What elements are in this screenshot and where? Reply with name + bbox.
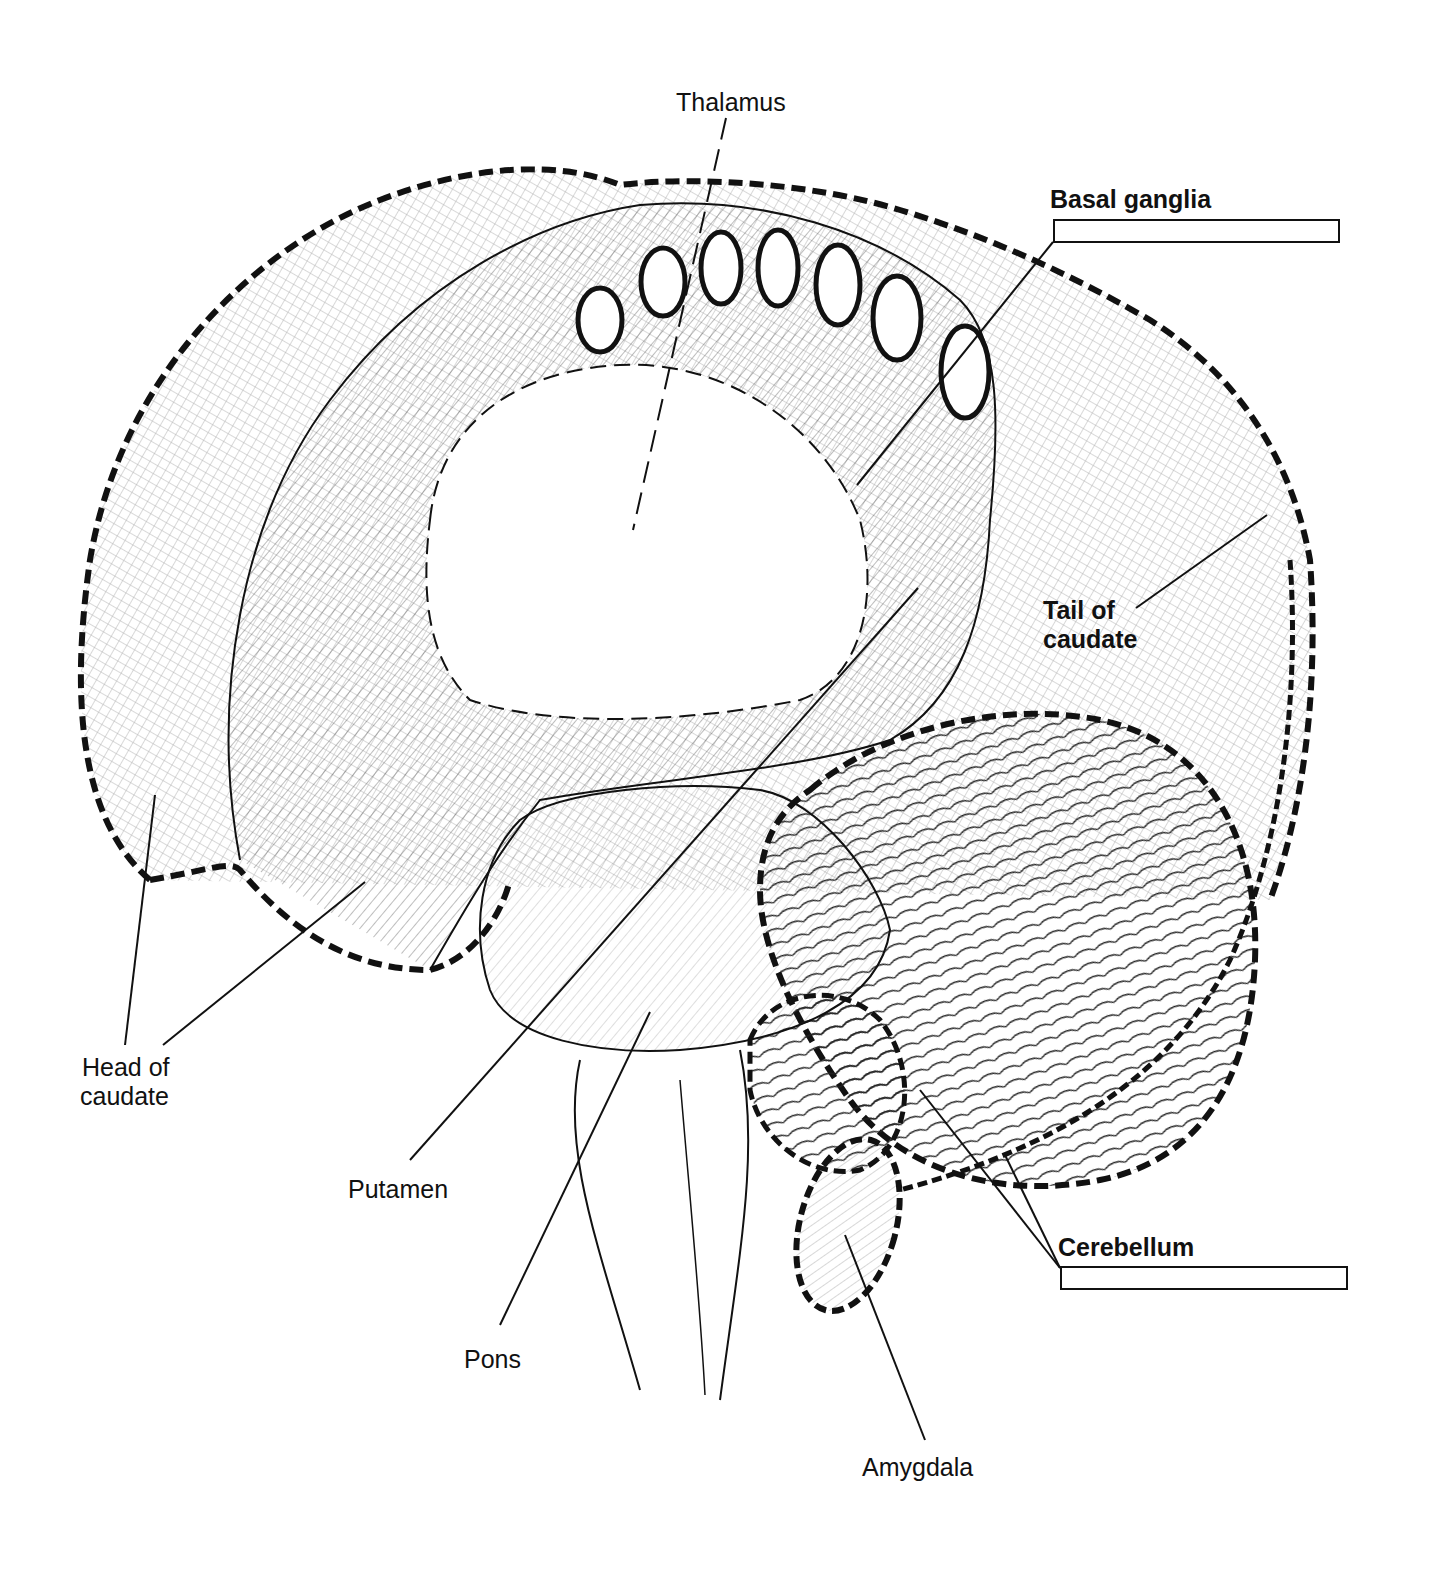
label-amygdala: Amygdala [862,1453,973,1482]
answer-box-cerebellum[interactable] [1060,1266,1348,1290]
label-cerebellum: Cerebellum [1058,1233,1194,1262]
label-thalamus: Thalamus [676,88,786,117]
label-head-of-caudate-line1: Head of [82,1053,170,1082]
label-head-of-caudate-line2: caudate [80,1082,169,1111]
label-pons: Pons [464,1345,521,1374]
label-basal-ganglia: Basal ganglia [1050,185,1211,214]
label-putamen: Putamen [348,1175,448,1204]
label-tail-of-caudate-line2: caudate [1043,625,1137,654]
answer-box-basal-ganglia[interactable] [1053,219,1340,243]
label-tail-of-caudate-line1: Tail of [1043,596,1115,625]
